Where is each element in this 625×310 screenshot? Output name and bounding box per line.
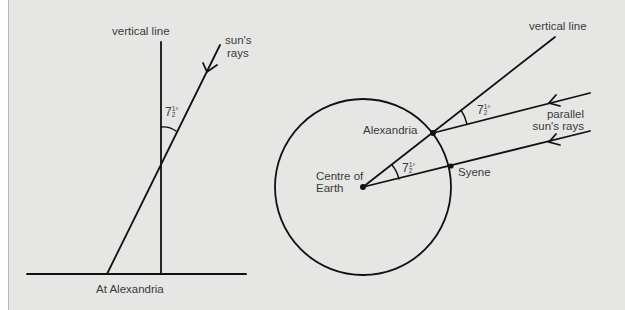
angle-arc bbox=[161, 127, 176, 131]
left-suns-rays-label-1: sun's bbox=[225, 34, 252, 47]
sun-ray bbox=[107, 45, 220, 274]
left-suns-rays-label-2: rays bbox=[227, 47, 249, 60]
right-angle-label-centre: 712° bbox=[402, 162, 416, 174]
at-alexandria-caption: At Alexandria bbox=[96, 283, 164, 296]
alexandria-dot bbox=[430, 130, 436, 136]
left-vertical-line-label: vertical line bbox=[112, 25, 170, 38]
angle-arc-centre bbox=[392, 165, 399, 179]
syene-dot bbox=[448, 163, 453, 168]
centre-dot bbox=[360, 184, 366, 190]
left-angle-label: 712° bbox=[165, 106, 179, 118]
alexandria-label: Alexandria bbox=[363, 124, 417, 137]
centre-of-earth-label-2: Earth bbox=[316, 182, 344, 195]
right-vertical-line-label: vertical line bbox=[529, 20, 587, 33]
right-angle-label-alexandria: 712° bbox=[477, 104, 491, 116]
angle-arc-alexandria bbox=[461, 110, 467, 124]
syene-label: Syene bbox=[458, 166, 491, 179]
parallel-rays-label-2: sun's rays bbox=[524, 120, 584, 133]
